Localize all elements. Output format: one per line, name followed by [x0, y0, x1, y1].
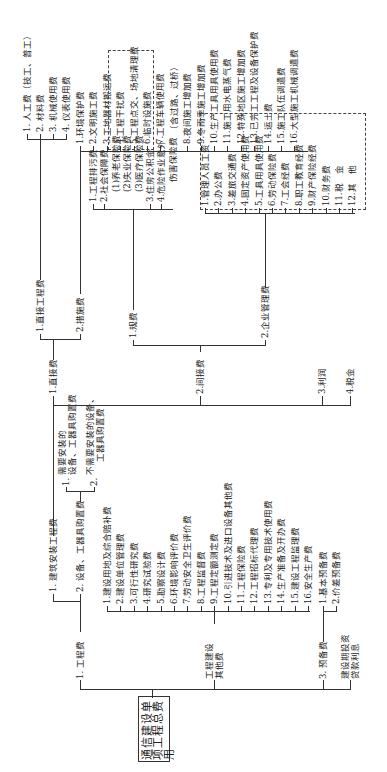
management-spine [205, 213, 355, 214]
connector [228, 606, 229, 612]
equip-install-1: 需要安装的 [57, 430, 67, 475]
list-item: 8.夜间施工增加费 [182, 73, 192, 144]
level1-engineering: 1. 工程费 [75, 641, 85, 679]
instrument-fee: 4. 仪表使用费 [61, 76, 71, 132]
connector [339, 208, 340, 214]
connector [161, 204, 162, 210]
list-item: 2.办公费 [213, 171, 223, 206]
connector [323, 612, 324, 642]
connector [94, 487, 95, 492]
connector [134, 606, 135, 612]
connector [120, 606, 121, 612]
list-item: 4.研究试验费 [142, 551, 152, 604]
equip-noinstall-2: 工器具购置费 [95, 408, 105, 462]
list-item: 5.工具用具使用费 [254, 135, 264, 206]
list-item: 8.职工教育经费 [294, 144, 304, 206]
list-item: 5.勘察设计费 [156, 551, 166, 604]
connector [285, 208, 286, 214]
list-item: （含过路、过桥） [169, 62, 179, 134]
list-item: 14.生产准备及开办费 [276, 518, 286, 604]
connector [350, 396, 351, 406]
equipment-spine [66, 491, 94, 492]
material-fee: 2. 材料费 [35, 94, 45, 132]
list-item: 13.专利及专用技术使用费 [263, 500, 273, 604]
connector [80, 152, 81, 294]
list-item: 11.税 金 [334, 165, 344, 206]
level1-other-costs-2: 其他费 [214, 652, 224, 679]
list-item: 4.危险作业意外 [156, 140, 166, 202]
connector [53, 406, 54, 536]
equip-noinstall-1: 不需要安装的设备、 [85, 394, 95, 475]
connector [53, 396, 54, 406]
list-item: 1.环境保护费 [75, 91, 85, 144]
direct-fee: 1.直接费 [48, 359, 58, 394]
connector [254, 606, 255, 612]
connector [205, 208, 206, 214]
connector [107, 606, 108, 612]
direct-spine [40, 339, 80, 340]
list-item: 9.工程定额测定费 [209, 533, 219, 604]
connector [295, 606, 296, 612]
connector [323, 680, 324, 690]
connector [80, 492, 81, 502]
indirect-spine [133, 345, 265, 346]
connector [326, 208, 327, 214]
connector [214, 612, 215, 624]
list-item: 1.管理人员工资 [200, 144, 210, 206]
list-item: 7.劳动安全卫生评价费 [182, 515, 192, 604]
list-item: 1.基本预备费 [318, 551, 328, 604]
machinery-fee: 3. 机械使用费 [48, 76, 58, 132]
list-item: 10.引进技术及进口设备其他费 [223, 482, 233, 604]
labor-fee: 1. 人工费（技工、普工） [22, 31, 32, 132]
list-item: 12.其 他 [347, 165, 357, 206]
measures-fee: 2.措施费 [75, 297, 85, 332]
connector [40, 334, 41, 340]
level1-other-costs-1: 工程建设 [204, 643, 214, 679]
list-item: 4.固定资产使用费 [240, 135, 250, 206]
list-item: 16.安全生产费 [303, 545, 313, 604]
list-item: 2.价差预备费 [331, 551, 341, 604]
connector [53, 134, 54, 140]
list-item: 2.社会保障费 [99, 149, 109, 202]
list-item: (1)养老保险费 [111, 135, 121, 192]
connector [53, 594, 54, 602]
connector [323, 606, 324, 612]
regulatory-fee: 1.规费 [128, 312, 138, 338]
connector [214, 680, 215, 690]
connector [150, 204, 151, 210]
other-costs-spine [107, 611, 310, 612]
connector [66, 487, 67, 492]
connector [299, 208, 300, 214]
list-item: 11.工程保险费 [236, 545, 246, 604]
connector [241, 606, 242, 612]
connector [200, 346, 201, 352]
connector [104, 204, 105, 210]
connector [40, 140, 41, 280]
connector [66, 134, 67, 140]
connector [93, 204, 94, 210]
connector [174, 606, 175, 612]
connector [352, 208, 353, 214]
list-item: 3.可行性研究费 [129, 542, 139, 604]
connector [133, 340, 134, 346]
connector [80, 334, 81, 340]
connector [322, 396, 323, 406]
list-item: 1.建设用地及综合赔补费 [102, 506, 112, 604]
list-item: 3.差旅交通费 [227, 153, 237, 206]
connector [268, 606, 269, 612]
connector [161, 606, 162, 612]
connector [200, 396, 201, 406]
connector [80, 594, 81, 602]
list-item: 10.财务费 [321, 165, 331, 206]
list-item: 2.文明施工费 [88, 91, 98, 144]
list-item: (3)医疗保险费 [134, 135, 144, 192]
construction-spine [53, 405, 350, 406]
engineering-spine [53, 601, 80, 602]
connector [218, 208, 219, 214]
connector [53, 340, 54, 360]
cost-structure-diagram: 通信建设单项工程总费用 1. 工程费 工程建设 其他费 3. 预备费 建设期投资… [0, 0, 387, 772]
connector [336, 606, 337, 612]
equipment-fee: 2. 设备、工器具购置费 [75, 500, 85, 592]
equip-install-num: 1. [61, 478, 71, 486]
direct-engineering-spine [27, 139, 67, 140]
